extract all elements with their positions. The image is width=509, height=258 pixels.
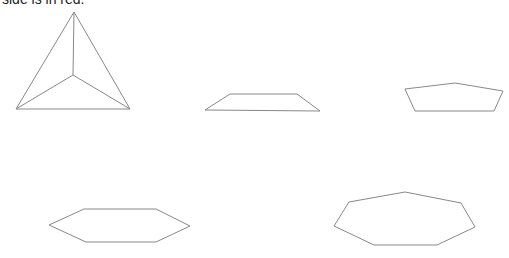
- hexagon-shape: [49, 209, 190, 242]
- tetrahedron-edge-top: [73, 12, 74, 75]
- tetrahedron-shape: [16, 12, 130, 109]
- tetrahedron-edge-right: [73, 75, 130, 109]
- shapes-canvas: [0, 0, 509, 258]
- trapezoid-shape: [205, 94, 320, 111]
- heptagon-shape: [334, 192, 475, 245]
- pentagon-shape: [405, 83, 503, 111]
- tetrahedron-edge-left: [16, 75, 73, 109]
